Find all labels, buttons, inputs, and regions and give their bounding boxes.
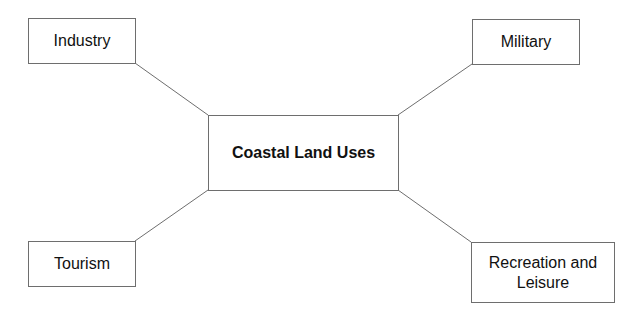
- node-recreation: Recreation and Leisure: [471, 242, 615, 303]
- edge-industry: [135, 63, 208, 115]
- edge-military: [398, 64, 472, 115]
- node-military: Military: [472, 19, 580, 65]
- node-military-label: Military: [501, 32, 552, 52]
- node-industry: Industry: [28, 18, 136, 64]
- node-recreation-label: Recreation and Leisure: [482, 253, 604, 293]
- edge-recreation: [398, 190, 471, 242]
- node-industry-label: Industry: [54, 31, 111, 51]
- node-center-label: Coastal Land Uses: [232, 143, 375, 163]
- node-center: Coastal Land Uses: [208, 115, 399, 191]
- edge-tourism: [135, 190, 208, 241]
- node-tourism: Tourism: [28, 241, 136, 287]
- node-tourism-label: Tourism: [54, 254, 110, 274]
